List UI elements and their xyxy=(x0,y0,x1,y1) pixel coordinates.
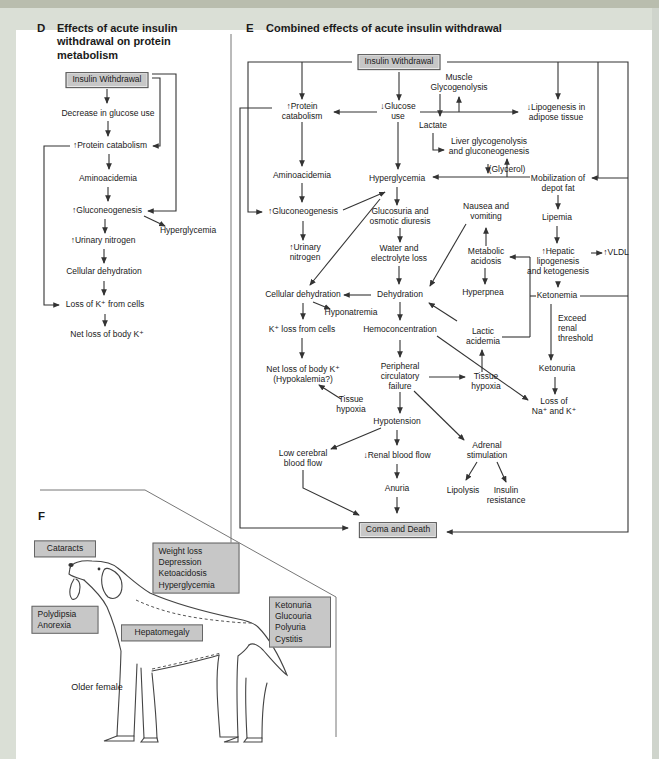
flow-node-hyperglycemia: Hyperglycemia xyxy=(160,226,216,236)
flow-node-hyperglycemia: Hyperglycemia xyxy=(369,174,425,184)
sign-box-ketonuria-glucouria-polyuria-cystitis: Ketonuria Glucouria Polyuria Cystitis xyxy=(269,597,331,648)
flow-node-decrease-in-glucose-use: Decrease in glucose use xyxy=(61,109,154,119)
flow-node-ketonuria: Ketonuria xyxy=(539,364,575,374)
flow-node-hypotension: Hypotension xyxy=(373,417,420,427)
flow-node-tissue-hypoxia: Tissue hypoxia xyxy=(336,395,365,415)
flow-node-glucose-use: ↓Glucose use xyxy=(380,102,415,122)
sign-box-cataracts: Cataracts xyxy=(34,540,96,557)
flow-node-muscle-glycogenolysis: Muscle Glycogenolysis xyxy=(430,73,487,93)
flow-node-lipogenesis-in-adipose-tissue: ↓Lipogenesis in adipose tissue xyxy=(527,103,586,123)
flow-node-dehydration: Dehydration xyxy=(377,290,423,300)
flow-node-lipolysis: Lipolysis xyxy=(447,486,480,496)
flow-node-peripheral-circulatory-failure: Peripheral circulatory failure xyxy=(381,362,420,391)
flow-node-mobilization-of-depot-fat: Mobilization of depot fat xyxy=(531,174,585,194)
flow-node-net-loss-of-body-k-hypokalemia: Net loss of body K⁺ (Hypokalemia?) xyxy=(266,365,339,385)
flow-node-exceed-renal-threshold: Exceed renal threshold xyxy=(558,314,593,343)
flow-node-hepatic-lipogenesis-and-ketogenesis: ↑Hepatic lipogenesis and ketogenesis xyxy=(527,247,589,276)
flow-node-aminoacidemia: Aminoacidemia xyxy=(79,174,137,184)
flow-node-renal-blood-flow: ↓Renal blood flow xyxy=(363,451,430,461)
flow-node-net-loss-of-body-k: Net loss of body K⁺ xyxy=(70,330,143,340)
flow-node-cellular-dehydration: Cellular dehydration xyxy=(265,290,341,300)
flow-node-gluconeogenesis: ↑Gluconeogenesis xyxy=(72,206,142,216)
flow-node-vldl: ↑VLDL xyxy=(603,248,629,258)
flow-node-ketonemia: Ketonemia xyxy=(537,291,578,301)
flow-node-tissue-hypoxia: Tissue hypoxia xyxy=(471,372,500,392)
sign-box-hepatomegaly: Hepatomegaly xyxy=(121,624,203,641)
flow-node-insulin-withdrawal: Insulin Withdrawal xyxy=(358,54,441,70)
flow-node-hemoconcentration: Hemoconcentration xyxy=(363,325,437,335)
flow-node-metabolic-acidosis: Metabolic acidosis xyxy=(468,247,504,267)
flow-node-nausea-and-vomiting: Nausea and vomiting xyxy=(463,202,509,222)
flow-node-gluconeogenesis: ↑Gluconeogenesis xyxy=(268,207,338,217)
dog-caption: Older female xyxy=(71,682,123,692)
flow-node-aminoacidemia: Aminoacidemia xyxy=(273,171,331,181)
flow-node-urinary-nitrogen: ↑Urinary nitrogen xyxy=(71,236,136,246)
figure-page: D Effects of acute insulin withdrawal on… xyxy=(0,0,659,759)
flow-node-insulin-resistance: Insulin resistance xyxy=(487,486,526,506)
sign-box-polydipsia-anorexia: Polydipsia Anorexia xyxy=(32,606,99,634)
flow-node-loss-of-na-and-k: Loss of Na⁺ and K⁺ xyxy=(532,397,576,417)
sign-box-weight-loss-depression-ketoacidosis-hype: Weight loss Depression Ketoacidosis Hype… xyxy=(153,543,240,594)
flow-node-urinary-nitrogen: ↑Urinary nitrogen xyxy=(289,243,321,263)
flow-node-glycerol: (Glycerol) xyxy=(489,165,526,175)
flow-node-low-cerebral-blood-flow: Low cerebral blood flow xyxy=(279,449,328,469)
flow-node-lactate: Lactate xyxy=(419,121,447,131)
flow-node-protein-catabolism: ↑Protein catabolism xyxy=(73,141,147,151)
flow-node-k-loss-from-cells: K⁺ loss from cells xyxy=(269,325,335,335)
flow-node-glucosuria-and-osmotic-diuresis: Glucosuria and osmotic diuresis xyxy=(370,207,431,227)
flow-node-adrenal-stimulation: Adrenal stimulation xyxy=(467,441,508,461)
flow-node-lactic-acidemia: Lactic acidemia xyxy=(466,327,500,347)
flow-node-anuria: Anuria xyxy=(385,484,410,494)
flow-node-coma-and-death: Coma and Death xyxy=(359,522,437,538)
flow-node-loss-of-k-from-cells: Loss of K⁺ from cells xyxy=(66,300,145,310)
flow-node-hyponatremia: Hyponatremia xyxy=(325,308,378,318)
flow-node-liver-glycogenolysis-and-gluconeogenesis: Liver glycogenolysis and gluconeogenesis xyxy=(449,137,529,157)
flow-node-water-and-electrolyte-loss: Water and electrolyte loss xyxy=(371,244,427,264)
flow-node-lipemia: Lipemia xyxy=(542,213,572,223)
flow-node-cellular-dehydration: Cellular dehydration xyxy=(66,267,142,277)
flow-node-protein-catabolism: ↑Protein catabolism xyxy=(282,102,323,122)
flow-node-insulin-withdrawal: Insulin Withdrawal xyxy=(66,72,149,88)
flow-node-hyperpnea: Hyperpnea xyxy=(462,288,504,298)
